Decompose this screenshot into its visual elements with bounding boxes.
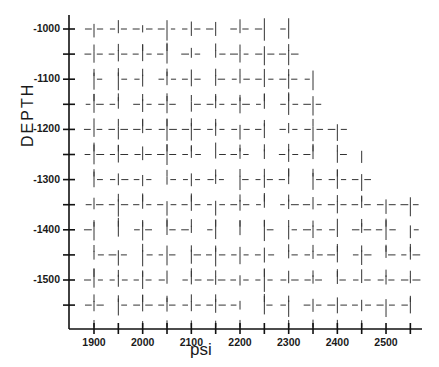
x-tick-label: 2100 [171,336,211,348]
y-axis-label: DEPTH [10,94,46,144]
chart-plot-area [0,0,439,367]
y-axis-label-text: DEPTH [19,87,37,147]
y-tick-label: -1100 [4,72,60,84]
y-tick-label: -1000 [4,22,60,34]
y-tick-label: -1200 [4,122,60,134]
y-tick-label: -1500 [4,273,60,285]
x-tick-label: 2500 [366,336,406,348]
grid-marks [84,18,420,327]
x-tick-label: 2000 [123,336,163,348]
x-tick-label: 1900 [74,336,114,348]
x-tick-label: 2400 [317,336,357,348]
y-tick-label: -1300 [4,173,60,185]
axes [63,15,422,334]
x-tick-label: 2300 [269,336,309,348]
y-tick-label: -1400 [4,223,60,235]
x-tick-label: 2200 [220,336,260,348]
